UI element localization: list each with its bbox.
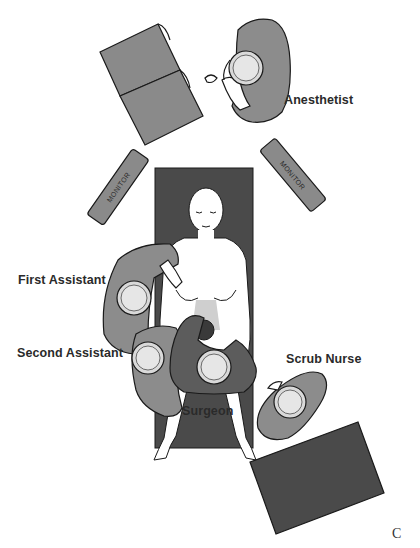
monitor-right: MONITOR xyxy=(260,138,327,212)
or-positioning-diagram: MONITOR MONITOR xyxy=(0,0,420,548)
scrub-nurse-figure xyxy=(257,372,326,440)
label-surgeon: Surgeon xyxy=(182,404,233,418)
monitor-left: MONITOR xyxy=(87,148,149,225)
anesthesia-machine xyxy=(100,24,203,145)
label-first-assistant: First Assistant xyxy=(18,273,106,287)
label-scrub-nurse: Scrub Nurse xyxy=(286,352,361,366)
anesthetist-figure xyxy=(205,19,290,122)
label-anesthetist: Anesthetist xyxy=(284,93,353,107)
panel-letter: C xyxy=(392,526,401,542)
label-second-assistant: Second Assistant xyxy=(17,346,123,360)
